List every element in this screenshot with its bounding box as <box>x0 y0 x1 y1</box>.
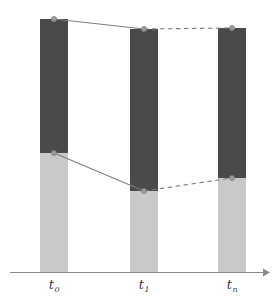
bar-t0-lower-segment <box>40 153 68 272</box>
tick-label-tn-base: t <box>227 277 232 292</box>
marker-tn-top <box>229 25 234 30</box>
marker-t0-split <box>51 150 56 155</box>
chart-canvas <box>0 0 276 301</box>
marker-t0-top <box>51 16 56 21</box>
bar-tn-lower-segment <box>218 178 246 272</box>
tick-label-t1: t1 <box>139 277 149 292</box>
bar-group-t1 <box>130 29 158 272</box>
marker-t1-top <box>141 26 146 31</box>
tick-label-tn: tn <box>227 277 237 292</box>
x-axis-arrow-icon <box>263 269 270 277</box>
bar-group-tn <box>218 28 246 272</box>
marker-tn-split <box>229 175 234 180</box>
bar-t1-lower-segment <box>130 191 158 272</box>
bar-tn-upper-segment <box>218 28 246 178</box>
tick-label-t0: t0 <box>49 277 59 292</box>
bar-t1-upper-segment <box>130 29 158 191</box>
tick-label-tn-subscript: n <box>233 285 238 294</box>
tick-label-t0-subscript: 0 <box>55 285 60 294</box>
bar-t0-upper-segment <box>40 19 68 153</box>
stacked-bar-chart: t0 t1 tn <box>0 0 276 301</box>
tick-label-t1-subscript: 1 <box>145 285 150 294</box>
marker-t1-split <box>141 188 146 193</box>
tick-label-t0-base: t <box>49 277 54 292</box>
tick-label-t1-base: t <box>139 277 144 292</box>
bar-group-t0 <box>40 19 68 272</box>
